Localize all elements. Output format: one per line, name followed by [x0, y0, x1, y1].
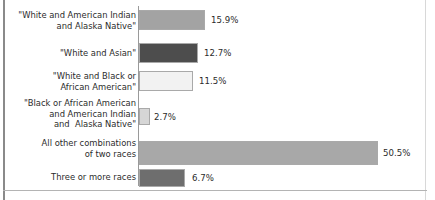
bar-value-label: 50.5%: [383, 148, 410, 158]
plot-area: "White and American Indian and Alaska Na…: [0, 0, 435, 190]
category-label: All other combinations of two races: [6, 138, 136, 159]
bar-value-label: 2.7%: [154, 112, 176, 122]
bar: [139, 108, 150, 125]
bar-value-label: 6.7%: [192, 173, 214, 183]
category-label: "White and Asian": [6, 48, 136, 59]
category-label: Three or more races: [6, 172, 136, 183]
category-label: "White and Black or African American": [6, 71, 136, 92]
bar-chart-figure: "White and American Indian and Alaska Na…: [0, 0, 435, 200]
bar: [139, 10, 205, 30]
bar-value-label: 15.9%: [211, 15, 238, 25]
bar: [139, 71, 193, 91]
bar: [139, 169, 185, 187]
bar: [139, 43, 198, 63]
bar: [139, 141, 378, 165]
bar-value-label: 11.5%: [199, 76, 226, 86]
category-label: "White and American Indian and Alaska Na…: [6, 10, 136, 31]
category-label: "Black or African American and American …: [6, 98, 136, 130]
page-edge-bottom: [3, 190, 427, 191]
bar-value-label: 12.7%: [204, 48, 231, 58]
